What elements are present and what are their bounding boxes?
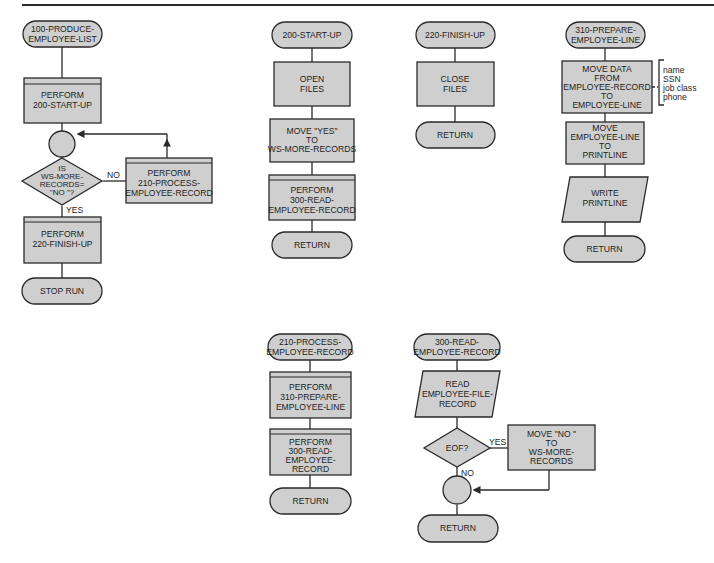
field-annotation: nameSSNjob classphone <box>662 65 696 102</box>
svg-text:210-PROCESS-EMPLOYEE-RECORD: 210-PROCESS-EMPLOYEE-RECORD <box>266 337 353 357</box>
module-200-start-up: 200-START-UP OPENFILES MOVE "YES"TOWS-MO… <box>268 22 357 258</box>
svg-text:RETURN: RETURN <box>440 523 476 533</box>
svg-text:PERFORM200-START-UP: PERFORM200-START-UP <box>33 90 92 110</box>
svg-text:RETURN: RETURN <box>437 130 473 140</box>
svg-text:STOP RUN: STOP RUN <box>40 286 84 296</box>
svg-text:PERFORM220-FINISH-UP: PERFORM220-FINISH-UP <box>32 229 92 249</box>
svg-text:220-FINISH-UP: 220-FINISH-UP <box>425 30 485 40</box>
svg-text:RETURN: RETURN <box>293 496 329 506</box>
svg-text:310-PREPARE-EMPLOYEE-LINE: 310-PREPARE-EMPLOYEE-LINE <box>571 25 641 45</box>
svg-text:RETURN: RETURN <box>587 244 623 254</box>
yes-label: YES <box>66 205 83 215</box>
connector-circle <box>443 476 471 504</box>
connector-circle <box>49 131 75 157</box>
svg-text:100-PRODUCE-EMPLOYEE-LIST: 100-PRODUCE-EMPLOYEE-LIST <box>28 24 97 44</box>
module-210-process-employee-record: 210-PROCESS-EMPLOYEE-RECORD PERFORM310-P… <box>266 334 353 514</box>
no-label: NO <box>107 170 120 180</box>
module-220-finish-up: 220-FINISH-UP CLOSEFILES RETURN <box>416 22 495 148</box>
no-label: NO <box>461 468 474 478</box>
module-300-read-employee-record: 300-READ-EMPLOYEE-RECORD READEMPLOYEE-FI… <box>413 334 595 542</box>
svg-text:RETURN: RETURN <box>294 240 330 250</box>
terminal-label: 100-PRODUCE- <box>31 24 94 34</box>
svg-text:EOF?: EOF? <box>446 443 469 453</box>
yes-label: YES <box>489 437 506 447</box>
svg-text:MOVE "NO "TOWS-MORE-RECORDS: MOVE "NO "TOWS-MORE-RECORDS <box>527 429 576 466</box>
svg-text:CLOSEFILES: CLOSEFILES <box>440 74 469 94</box>
module-100-produce-employee-list: 100-PRODUCE-EMPLOYEE-LIST PERFORM200-STA… <box>22 21 213 304</box>
flowchart-canvas: 100-PRODUCE-EMPLOYEE-LIST PERFORM200-STA… <box>0 0 714 563</box>
svg-text:OPENFILES: OPENFILES <box>300 74 324 94</box>
module-310-prepare-employee-line: 310-PREPARE-EMPLOYEE-LINE MOVE DATAFROME… <box>562 22 696 262</box>
svg-text:200-START-UP: 200-START-UP <box>283 30 342 40</box>
svg-text:PERFORM300-READ-EMPLOYEE-RECOR: PERFORM300-READ-EMPLOYEE-RECORD <box>285 437 335 474</box>
